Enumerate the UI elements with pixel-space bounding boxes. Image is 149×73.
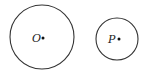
- circle-p: [96, 18, 138, 60]
- diagram-canvas: O P: [0, 0, 149, 73]
- circle-p-group: P: [96, 18, 138, 60]
- label-o: O: [32, 32, 41, 45]
- circle-o-group: O: [10, 5, 74, 69]
- label-p: P: [107, 33, 116, 46]
- center-point-o: [42, 37, 45, 40]
- center-point-p: [118, 38, 121, 41]
